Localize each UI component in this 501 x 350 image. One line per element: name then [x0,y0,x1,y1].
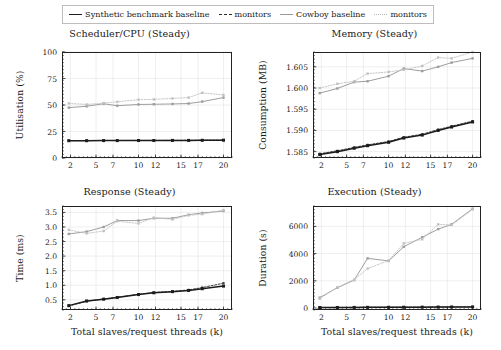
x-tick-label: 17 [443,161,453,170]
panel-execution: Execution (Steady)0200040006000257101215… [253,186,496,350]
panel-response: Response (Steady)0.51.01.52.02.53.03.525… [8,186,251,350]
x-tick-label: 20 [468,313,478,322]
y-tick-label: 0.5 [27,295,57,304]
panel-memory: Memory (Steady)1.5851.5901.5951.6001.605… [253,28,496,186]
x-tick-label: 12 [151,161,161,170]
x-tick-label: 12 [151,313,161,322]
y-tick-label: 1.590 [278,126,308,135]
y-axis-label: Consumption (MB) [257,52,268,158]
y-tick-label: 0 [278,303,308,312]
legend-label: monitors [235,10,272,18]
y-tick-label: 1.605 [278,62,308,71]
x-tick-label: 15 [426,161,436,170]
y-tick-label: 4000 [278,249,308,258]
x-tick-label: 17 [193,313,203,322]
x-tick-label: 17 [443,313,453,322]
x-tick-label: 5 [94,313,99,322]
y-axis-label: Duration (s) [257,206,268,310]
x-tick-label: 2 [319,161,324,170]
x-tick-label: 2 [68,161,73,170]
legend-line-swatch [219,11,232,18]
y-tick-label: 2.0 [27,252,57,261]
y-tick-label: 3.0 [27,222,57,231]
y-tick-label: 1.0 [27,281,57,290]
chart-title: Memory (Steady) [253,28,496,39]
legend-label: Cowboy baseline [296,10,365,18]
x-tick-label: 20 [468,161,478,170]
legend-line-swatch [280,11,293,18]
x-tick-label: 10 [134,313,144,322]
y-tick-label: 6000 [278,222,308,231]
x-tick-label: 5 [344,161,349,170]
y-tick-label: 2.5 [27,237,57,246]
y-tick-label: 1.585 [278,147,308,156]
y-tick-label: 0 [27,154,57,163]
chart-title: Scheduler/CPU (Steady) [8,28,251,39]
x-tick-label: 5 [94,161,99,170]
chart-title: Response (Steady) [8,186,251,197]
x-tick-label: 12 [401,313,411,322]
x-tick-label: 12 [401,161,411,170]
y-tick-label: 50 [27,101,57,110]
plot-area [313,206,481,310]
plot-area [62,206,232,310]
y-tick-label: 75 [27,74,57,83]
y-tick-label: 2000 [278,276,308,285]
x-tick-label: 5 [344,313,349,322]
x-tick-label: 7 [361,313,366,322]
panel-scheduler-cpu: Scheduler/CPU (Steady)025507510025710121… [8,28,251,186]
x-tick-label: 7 [361,161,366,170]
x-tick-label: 15 [176,161,186,170]
x-axis-label: Total slaves/request threads (k) [313,326,481,337]
legend-label: Synthetic benchmark baseline [85,10,209,18]
chart-legend: Synthetic benchmark baselinemonitorsCowb… [62,5,434,24]
y-tick-label: 100 [27,48,57,57]
y-tick-label: 3.5 [27,208,57,217]
legend-entry: Synthetic benchmark baseline [69,10,209,18]
x-tick-label: 20 [219,161,229,170]
x-tick-label: 2 [319,313,324,322]
legend-entry: Cowboy baseline [280,10,365,18]
x-tick-label: 15 [176,313,186,322]
axes-frame [62,52,232,158]
x-tick-label: 17 [193,161,203,170]
y-tick-label: 1.595 [278,105,308,114]
legend-entry: monitors [374,10,427,18]
legend-label: monitors [390,10,427,18]
axes-frame [62,206,232,310]
chart-title: Execution (Steady) [253,186,496,197]
x-tick-label: 10 [134,161,144,170]
y-axis-label: Time (ms) [14,206,25,310]
x-tick-label: 15 [426,313,436,322]
figure-canvas: Synthetic benchmark baselinemonitorsCowb… [0,0,501,350]
x-tick-label: 20 [219,313,229,322]
x-tick-label: 10 [384,161,394,170]
x-tick-label: 2 [68,313,73,322]
plot-area [62,52,232,158]
legend-line-swatch [374,11,387,18]
y-axis-label: Utilisation (%) [14,52,25,158]
x-tick-label: 10 [384,313,394,322]
x-tick-label: 7 [111,313,116,322]
x-tick-label: 7 [111,161,116,170]
axes-frame [313,206,481,310]
y-tick-label: 25 [27,127,57,136]
legend-entry: monitors [219,10,272,18]
axes-frame [313,52,481,158]
legend-line-swatch [69,11,82,18]
y-tick-label: 1.5 [27,266,57,275]
plot-area [313,52,481,158]
y-tick-label: 1.600 [278,84,308,93]
x-axis-label: Total slaves/request threads (k) [62,326,232,337]
